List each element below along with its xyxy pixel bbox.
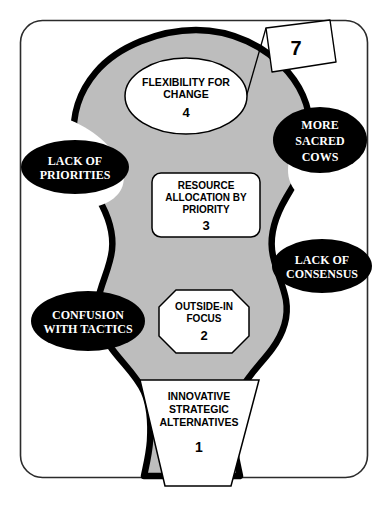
obstacle-confusion-with-tactics-line-1: CONFUSION bbox=[52, 308, 124, 322]
stage-3-line-3: PRIORITY bbox=[182, 204, 230, 215]
stage-1-line-3: ALTERNATIVES bbox=[160, 416, 239, 428]
obstacle-more-sacred-cows-line-2: SACRED bbox=[295, 134, 345, 148]
stage-4-line-2: CHANGE bbox=[163, 88, 209, 100]
stage-1-line-1: INNOVATIVE bbox=[168, 390, 231, 402]
stage-2-number: 2 bbox=[200, 328, 207, 343]
stage-2-line-1: OUTSIDE-IN bbox=[175, 301, 233, 312]
obstacle-lack-of-consensus-line-2: CONSENSUS bbox=[286, 267, 358, 281]
flag-label: 7 bbox=[290, 37, 301, 59]
stage-3-line-1: RESOURCE bbox=[178, 180, 235, 191]
stage-1-line-2: STRATEGIC bbox=[169, 403, 229, 415]
funnel-diagram: 7 FLEXIBILITY FOR CHANGE 4 RESOURCE ALLO… bbox=[0, 0, 386, 508]
stage-2-line-2: FOCUS bbox=[187, 313, 222, 324]
stage-3-line-2: ALLOCATION BY bbox=[165, 192, 247, 203]
stage-1-number: 1 bbox=[195, 439, 203, 455]
stage-4-line-1: FLEXIBILITY FOR bbox=[142, 76, 230, 88]
obstacle-lack-of-priorities-line-1: LACK OF bbox=[48, 154, 102, 168]
obstacle-confusion-with-tactics-line-2: WITH TACTICS bbox=[43, 322, 133, 336]
obstacle-lack-of-priorities-line-2: PRIORITIES bbox=[40, 168, 111, 182]
obstacle-more-sacred-cows-line-1: MORE bbox=[301, 118, 338, 132]
obstacle-lack-of-consensus-line-1: LACK OF bbox=[295, 253, 349, 267]
stage-4-number: 4 bbox=[182, 105, 190, 120]
stage-3-number: 3 bbox=[202, 218, 209, 233]
diagram-canvas: 7 FLEXIBILITY FOR CHANGE 4 RESOURCE ALLO… bbox=[0, 0, 386, 508]
obstacle-more-sacred-cows-line-3: COWS bbox=[302, 150, 339, 164]
